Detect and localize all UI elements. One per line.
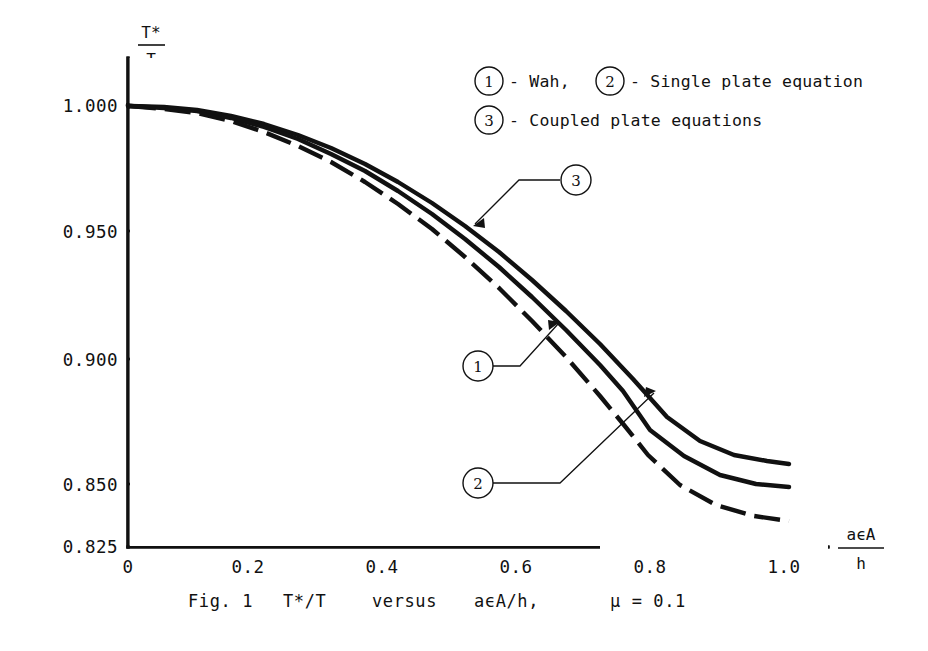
caption-parameter: μ = 0.1 [610, 591, 686, 611]
x-tick-label-2: 0.4 [365, 557, 398, 577]
x-tick-label-0: 0 [122, 557, 133, 577]
caption-versus: versus [372, 591, 437, 611]
x-axis-tick-labels: 0 0.2 0.4 0.6 0.8 1.0 [122, 557, 800, 577]
x-axis-title-denominator: h [856, 554, 866, 573]
figure-container: 1.000 0.950 0.900 0.850 0.825 0 0.2 0.4 … [0, 0, 928, 651]
legend-marker-3-label: 3 [484, 112, 494, 130]
x-tick-label-1: 0.2 [231, 557, 264, 577]
y-tick-label-1: 0.950 [63, 222, 118, 242]
caption-variable: aϵA/h, [474, 591, 539, 611]
legend-item-1-text: - Wah, [509, 72, 570, 91]
legend-marker-1-label: 1 [484, 73, 494, 91]
legend-item-3-text: - Coupled plate equations [509, 111, 762, 130]
x-tick-label-5: 1.0 [767, 557, 800, 577]
legend-item-2-text: - Single plate equation [630, 72, 863, 91]
y-tick-label-3: 0.850 [63, 475, 118, 495]
figure-caption-group: Fig. 1 T*/T versus aϵA/h, μ = 0.1 [188, 591, 686, 611]
legend-marker-2-label: 2 [605, 73, 615, 91]
callout-2-label: 2 [473, 475, 483, 493]
caption-figure-label: Fig. 1 [188, 591, 253, 611]
callout-1-label: 1 [473, 358, 483, 376]
y-axis-title-numerator: T* [141, 23, 160, 42]
x-axis-title: aϵA h [838, 525, 884, 573]
x-tick-label-4: 0.8 [633, 557, 666, 577]
y-axis-tick-labels: 1.000 0.950 0.900 0.850 0.825 [63, 96, 118, 557]
y-tick-label-4: 0.825 [63, 537, 118, 557]
chart-canvas: 1.000 0.950 0.900 0.850 0.825 0 0.2 0.4 … [0, 0, 928, 651]
x-tick-label-3: 0.6 [499, 557, 532, 577]
caption-subject: T*/T [283, 591, 326, 611]
callout-3-label: 3 [571, 172, 581, 190]
x-axis-title-numerator: aϵA [847, 525, 876, 544]
y-tick-label-2: 0.900 [63, 350, 118, 370]
y-tick-label-0: 1.000 [63, 96, 118, 116]
